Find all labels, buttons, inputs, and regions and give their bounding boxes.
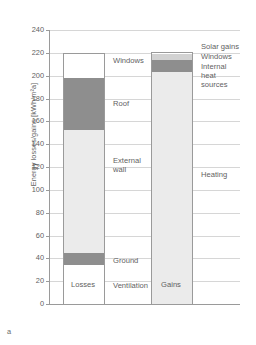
xaxis-label-losses: Losses	[53, 280, 113, 289]
ytick-label-60: 60	[36, 232, 44, 239]
ytick-label-120: 120	[32, 163, 44, 170]
ytick-20	[46, 281, 50, 282]
ytick-180	[46, 99, 50, 100]
label-losses-windows: Windows	[113, 56, 144, 65]
figure-caption: a	[7, 327, 11, 336]
ytick-label-220: 220	[32, 49, 44, 56]
segment-gains-internal-heat-sources[interactable]	[151, 60, 193, 73]
plot-area: 240 220 200 180 160 140 120 100 80 60 40	[49, 30, 239, 304]
ytick-60	[46, 236, 50, 237]
segment-losses-windows[interactable]	[63, 53, 105, 78]
ytick-label-80: 80	[36, 209, 44, 216]
ytick-label-0: 0	[40, 300, 44, 307]
ytick-label-160: 160	[32, 118, 44, 125]
ytick-label-180: 180	[32, 95, 44, 102]
ytick-label-200: 200	[32, 72, 44, 79]
ytick-label-40: 40	[36, 255, 44, 262]
ytick-240	[46, 30, 50, 31]
ytick-160	[46, 121, 50, 122]
ytick-label-140: 140	[32, 140, 44, 147]
ytick-120	[46, 167, 50, 168]
ytick-label-20: 20	[36, 277, 44, 284]
ytick-80	[46, 213, 50, 214]
ytick-140	[46, 144, 50, 145]
ytick-40	[46, 258, 50, 259]
label-gains-heating: Heating	[201, 170, 227, 179]
figure-energy-balance: Energy losses/gains [kWh/m²a] 240 220 20…	[0, 0, 256, 345]
segment-gains-heating[interactable]	[151, 72, 193, 304]
label-losses-roof: Roof	[113, 99, 129, 108]
y-axis-title: Energy losses/gains [kWh/m²a]	[29, 40, 38, 230]
ytick-200	[46, 76, 50, 77]
ytick-220	[46, 53, 50, 54]
ytick-label-100: 100	[32, 186, 44, 193]
gridline-240	[50, 30, 240, 31]
label-gains-windows: Windows	[201, 52, 232, 61]
segment-losses-external-wall[interactable]	[63, 130, 105, 252]
label-gains-internal-heat-sources: Internal heat sources	[201, 62, 239, 90]
ytick-0	[46, 304, 50, 305]
label-losses-ground: Ground	[113, 256, 138, 265]
label-losses-external-wall: External wall	[113, 156, 141, 174]
gridline-0-baseline	[50, 304, 240, 305]
label-gains-solar-gains: Solar gains	[201, 42, 239, 51]
segment-gains-windows[interactable]	[151, 54, 193, 60]
ytick-label-240: 240	[32, 26, 44, 33]
segment-gains-solar-gains[interactable]	[151, 52, 193, 54]
segment-losses-ground[interactable]	[63, 253, 105, 266]
ytick-100	[46, 190, 50, 191]
xaxis-label-gains: Gains	[141, 280, 201, 289]
segment-losses-roof[interactable]	[63, 78, 105, 131]
